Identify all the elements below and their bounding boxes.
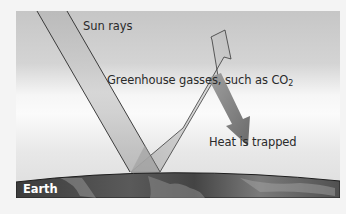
sun-rays-label: Sun rays [83,19,132,33]
heat-trapped-label: Heat is trapped [209,135,297,149]
earth-label: Earth [23,182,57,196]
greenhouse-gasses-label: Greenhouse gasses, such as CO2 [107,73,293,88]
greenhouse-gasses-text: Greenhouse gasses, such as CO [107,73,288,87]
co2-subscript: 2 [288,79,293,88]
